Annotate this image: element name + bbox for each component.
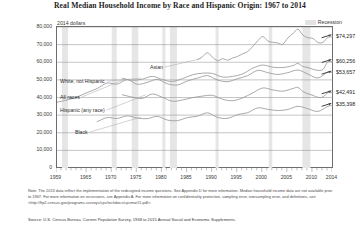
x-tick-label: 1970 — [105, 174, 116, 180]
y-tick-label: 50,000 — [36, 76, 52, 82]
value-callout-asian: $74,297 — [336, 33, 355, 39]
x-tick-label: 2000 — [256, 174, 267, 180]
y-tick-label: 40,000 — [36, 94, 52, 100]
y-axis: 010,00020,00030,00040,00050,00060,00070,… — [0, 26, 55, 172]
x-tick-label: 1959 — [50, 174, 61, 180]
chart-canvas — [57, 27, 333, 168]
x-tick-label: 2014 — [326, 174, 337, 180]
plot-area — [56, 26, 333, 168]
chart-page: Real Median Household Income by Race and… — [0, 0, 360, 236]
chart-source: Source: U.S. Census Bureau, Current Popu… — [28, 217, 334, 223]
y-tick-label: 80,000 — [36, 23, 52, 29]
x-tick-label: 2010 — [306, 174, 317, 180]
y-tick-label: 10,000 — [36, 146, 52, 152]
x-tick-marks — [56, 168, 332, 173]
x-tick-label: 1985 — [180, 174, 191, 180]
series-label-hispanic-any-race: Hispanic (any race) — [60, 107, 105, 113]
y-tick-label: 20,000 — [36, 129, 52, 135]
value-callout-white-not-hispanic: $60,256 — [336, 58, 355, 64]
value-callout-all-races: $53,657 — [336, 69, 355, 75]
x-axis: 1959196519701975198019851990199520002005… — [56, 168, 333, 184]
series-label-white-not-hispanic: White, not Hispanic — [60, 78, 105, 84]
y-tick-label: 60,000 — [36, 58, 52, 64]
series-label-black: Black — [75, 129, 88, 135]
value-callout-hispanic-any-race: $42,491 — [336, 89, 355, 95]
y-tick-label: 70,000 — [36, 41, 52, 47]
x-tick-label: 1980 — [155, 174, 166, 180]
y-tick-label: 0 — [49, 164, 52, 170]
x-tick-label: 1975 — [130, 174, 141, 180]
series-line-3 — [122, 87, 333, 101]
page-title: Real Median Household Income by Race and… — [0, 1, 360, 10]
x-tick-label: 1990 — [205, 174, 216, 180]
x-tick-label: 1965 — [80, 174, 91, 180]
y-tick-label: 30,000 — [36, 111, 52, 117]
legend-label-recession: Recession — [318, 19, 342, 25]
series-label-asian: Asian — [150, 64, 163, 70]
value-callout-black: $35,398 — [336, 101, 355, 107]
legend: Recession — [305, 19, 342, 25]
x-tick-label: 1995 — [230, 174, 241, 180]
x-tick-label: 2005 — [281, 174, 292, 180]
series-label-all-races: All races — [60, 94, 80, 100]
recession-swatch-icon — [305, 20, 316, 25]
chart-footnote: Note: The 2013 data reflect the implemen… — [28, 188, 334, 206]
